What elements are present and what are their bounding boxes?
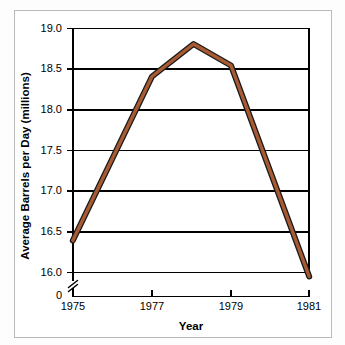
y-axis-title: Average Barrels per Day (millions) [19, 61, 31, 271]
x-axis-title: Year [72, 320, 310, 332]
ytick-label-19-0: 19.0 [20, 22, 62, 34]
xtick-label-1979: 1979 [209, 300, 253, 312]
xtick-label-1977: 1977 [130, 300, 174, 312]
data-line-outline [73, 44, 309, 277]
chart-figure: 19.0 18.5 18.0 17.5 17.0 16.5 16.0 0 197… [0, 0, 345, 345]
x-axis [72, 290, 310, 297]
xtick-label-1975: 1975 [51, 300, 95, 312]
gridlines [72, 29, 310, 273]
xtick-label-1981: 1981 [287, 300, 331, 312]
